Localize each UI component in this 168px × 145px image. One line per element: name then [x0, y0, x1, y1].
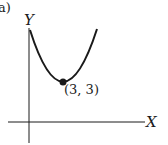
panel-label: a): [0, 1, 11, 14]
y-axis-label: Y: [24, 13, 34, 28]
parabola-diagram: a) Y X (3, 3): [0, 0, 168, 145]
vertex-point-label: (3, 3): [64, 83, 99, 96]
parabola-curve: [30, 29, 97, 82]
x-axis-label: X: [146, 115, 157, 130]
